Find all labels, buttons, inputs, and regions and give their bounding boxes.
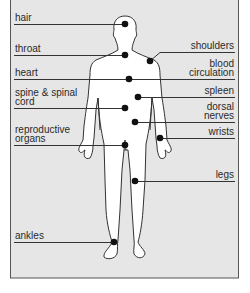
hair-point xyxy=(122,21,129,28)
label-reproductive-line2: organs xyxy=(15,134,46,144)
dorsal-point xyxy=(132,119,139,126)
label-wrists: wrists xyxy=(208,127,234,137)
label-hair: hair xyxy=(15,13,32,23)
spleen-point xyxy=(135,94,142,101)
label-blood-line2: circulation xyxy=(189,68,234,78)
label-shoulders: shoulders xyxy=(191,41,234,51)
reproductive-point xyxy=(122,142,129,149)
throat-point xyxy=(122,52,129,59)
legs-point xyxy=(132,178,139,185)
label-heart: heart xyxy=(15,68,38,78)
label-spine-line2: cord xyxy=(15,97,34,107)
label-throat: throat xyxy=(15,44,41,54)
shoulders-point xyxy=(147,58,154,65)
heart-point xyxy=(126,76,133,83)
label-spleen: spleen xyxy=(205,86,234,96)
label-ankles: ankles xyxy=(15,231,44,241)
label-dorsal-line2: nerves xyxy=(204,111,234,121)
spine-point xyxy=(122,105,129,112)
label-legs: legs xyxy=(216,170,234,180)
ankles-point xyxy=(111,239,118,246)
wrists-point xyxy=(157,135,164,142)
